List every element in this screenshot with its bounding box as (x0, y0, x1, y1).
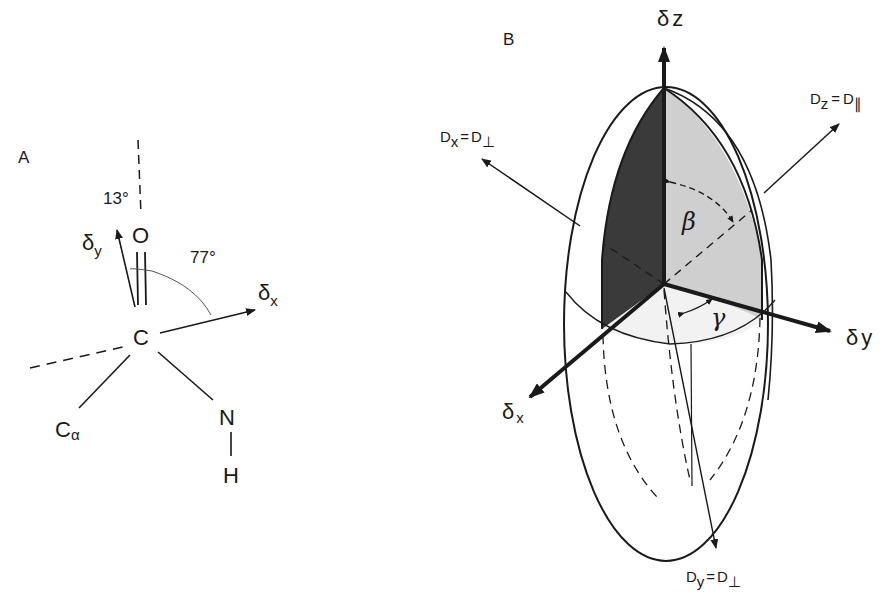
carbonyl-carbon-atom: C (133, 325, 149, 350)
angle-13-label: 13° (103, 189, 129, 208)
beta-label: β (681, 208, 696, 236)
delta-x-arrow (160, 310, 255, 333)
hydrogen-atom: H (223, 463, 239, 488)
gamma-label: γ (711, 304, 726, 332)
nitrogen-atom: N (219, 405, 235, 430)
delta-x-label: δx (258, 280, 278, 309)
delta-y-label: δy (846, 325, 872, 350)
reference-dashed-line (138, 140, 141, 215)
panel-b: B β γ δz δy (440, 6, 872, 590)
double-bond-line-2 (145, 252, 146, 305)
delta-y-label: δy (82, 230, 102, 259)
delta-z-label: δz (657, 6, 683, 31)
dz-label: Dz=D∥ (810, 90, 862, 113)
delta-x-label: δx (502, 399, 524, 426)
dx-label: Dx=D⊥ (440, 128, 495, 150)
oxygen-atom: O (132, 223, 149, 248)
angle-77-label: 77° (190, 248, 216, 267)
c-n-bond (158, 352, 213, 400)
c-alpha-atom: Cα (55, 417, 80, 443)
dy-label: Dy=D⊥ (686, 568, 741, 590)
panel-a-label: A (18, 148, 30, 167)
dz-diffusion-arrow (764, 124, 839, 193)
angle-77-arc (130, 269, 211, 315)
double-bond-line-1 (137, 252, 138, 305)
figure: A 13° O δy 77° δx C Cα N H B (0, 0, 891, 597)
panel-b-label: B (503, 30, 514, 49)
c-calpha-bond (79, 355, 130, 408)
dx-diffusion-arrow (482, 159, 580, 226)
peptide-plane-dashed-line (30, 347, 123, 368)
panel-a: A 13° O δy 77° δx C Cα N H (18, 140, 278, 488)
